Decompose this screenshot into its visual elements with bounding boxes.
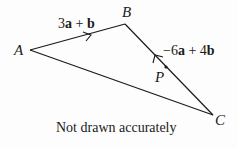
- point-p-dot: [164, 65, 167, 68]
- label-p: P: [155, 70, 164, 85]
- side-ac: [30, 50, 213, 115]
- side-bc: [125, 24, 213, 115]
- label-a: A: [14, 43, 23, 58]
- label-b: B: [122, 5, 131, 20]
- label-c: C: [215, 113, 225, 128]
- vector-ab-label: 3a + b: [58, 17, 95, 31]
- triangle-diagram: A B C P 3a + b −6a + 4b Not drawn accura…: [0, 0, 237, 148]
- not-drawn-accurately-note: Not drawn accurately: [56, 121, 177, 135]
- vector-cb-label: −6a + 4b: [163, 44, 215, 58]
